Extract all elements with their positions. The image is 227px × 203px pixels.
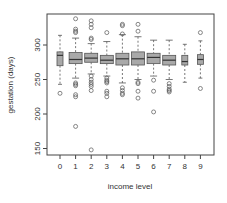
outlier-point <box>105 31 109 35</box>
x-tick-label: 8 <box>183 162 188 171</box>
plot-frame <box>47 14 214 155</box>
box-iqr <box>69 53 82 64</box>
box-iqr <box>182 55 188 65</box>
outlier-point <box>136 96 140 100</box>
outlier-point <box>198 86 202 90</box>
x-tick-label: 9 <box>198 162 203 171</box>
chart-root: 150200250300gestation (days)0123456789in… <box>0 0 227 203</box>
y-tick-label: 150 <box>33 141 42 155</box>
outlier-point <box>74 17 78 21</box>
boxplot-chart: 150200250300gestation (days)0123456789in… <box>0 0 227 203</box>
x-tick-label: 6 <box>151 162 156 171</box>
outlier-point <box>152 78 156 82</box>
x-axis-label: income level <box>108 182 153 191</box>
x-tick-label: 7 <box>167 162 172 171</box>
x-tick-label: 3 <box>105 162 110 171</box>
outlier-point <box>136 89 140 93</box>
outlier-point <box>136 29 140 33</box>
y-axis-label: gestation (days) <box>6 56 15 113</box>
x-tick-label: 2 <box>89 162 94 171</box>
outlier-point <box>58 91 62 95</box>
outlier-point <box>89 89 93 93</box>
outlier-point <box>152 110 156 114</box>
box-iqr <box>57 52 63 66</box>
y-tick-label: 250 <box>33 72 42 86</box>
outlier-point <box>136 22 140 26</box>
box-iqr <box>147 53 160 63</box>
y-tick-label: 300 <box>33 38 42 52</box>
x-tick-label: 5 <box>136 162 141 171</box>
x-tick-label: 4 <box>120 162 125 171</box>
x-tick-label: 1 <box>73 162 78 171</box>
x-tick-label: 0 <box>58 162 63 171</box>
outlier-point <box>74 124 78 128</box>
outlier-point <box>198 31 202 35</box>
y-tick-label: 200 <box>33 107 42 121</box>
outlier-point <box>89 148 93 152</box>
box-iqr <box>100 55 113 63</box>
outlier-point <box>152 89 156 93</box>
